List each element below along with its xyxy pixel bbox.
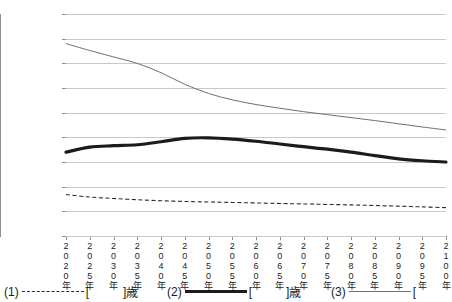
x-axis-tick-label: 2020年 (61, 241, 70, 275)
legend-unit-2: 歳 (289, 283, 301, 300)
legend-item-2[interactable]: (2) [ ] 歳 (167, 281, 301, 302)
legend-bracket-open-3: [ (413, 285, 416, 299)
x-axis-tick-label: 2060年 (251, 241, 260, 275)
gridline (66, 236, 446, 237)
legend-swatch-thick-icon (185, 290, 247, 293)
legend-tag-2: (2) (167, 285, 182, 299)
series-line-2 (66, 138, 446, 162)
x-axis-tick-label: 2065年 (275, 241, 284, 275)
chart-container: 9000800070006000500040003000200010000 20… (0, 0, 452, 302)
x-axis-tick-label: 2035年 (132, 241, 141, 275)
legend-bracket-open-2: [ (249, 285, 252, 299)
legend-item-1[interactable]: (1) [ ] 歳 (4, 281, 138, 302)
legend-tag-1: (1) (4, 285, 19, 299)
legend-unit-1: 歳 (126, 283, 138, 300)
x-axis-tick-label: 2025年 (85, 241, 94, 275)
x-axis-tick-label: 2080年 (346, 241, 355, 275)
plot-area (66, 14, 446, 236)
x-axis-tick-label: 2045年 (180, 241, 189, 275)
x-axis-tick-label: 2085年 (370, 241, 379, 275)
legend-item-3[interactable]: (3) [ (331, 281, 416, 302)
chart-legend: (1) [ ] 歳 (2) [ ] 歳 (3) [ (0, 281, 452, 302)
x-axis-tick-label: 2040年 (156, 241, 165, 275)
series-lines (66, 14, 446, 236)
legend-bracket-open-1: [ (86, 285, 89, 299)
series-line-1 (66, 195, 446, 208)
legend-tag-3: (3) (331, 285, 346, 299)
x-axis-tick-label: 2095年 (417, 241, 426, 275)
x-axis-tick-mark (446, 236, 447, 240)
x-axis-tick-label: 2070年 (299, 241, 308, 275)
x-axis-tick-label: 2055年 (227, 241, 236, 275)
series-line-3 (66, 44, 446, 130)
x-axis-tick-label: 2075年 (322, 241, 331, 275)
x-axis-tick-label: 2090年 (394, 241, 403, 275)
chart-title (0, 0, 452, 1)
x-axis-tick-label: 2030年 (109, 241, 118, 275)
x-axis-tick-label: 2050年 (204, 241, 213, 275)
x-axis-tick-label: 2100年 (441, 241, 450, 275)
legend-swatch-dashed-icon (22, 291, 84, 292)
legend-swatch-thin-icon (349, 291, 411, 292)
y-axis-line (0, 14, 1, 237)
